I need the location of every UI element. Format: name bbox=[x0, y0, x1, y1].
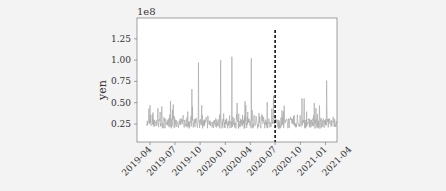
line-chart: 0.250.500.751.001.25 2019-042019-072019-… bbox=[0, 0, 446, 191]
y-tick-label: 1.25 bbox=[111, 34, 131, 44]
x-axis-ticks: 2019-042019-072019-102020-012020-042020-… bbox=[120, 142, 354, 178]
chart-figure: 0.250.500.751.001.25 2019-042019-072019-… bbox=[0, 0, 446, 191]
y-offset-label: 1e8 bbox=[137, 6, 156, 17]
y-tick-label: 0.50 bbox=[111, 98, 131, 108]
y-tick-label: 0.75 bbox=[111, 76, 131, 86]
y-tick-label: 0.25 bbox=[111, 119, 131, 129]
y-axis-label: yen bbox=[96, 80, 109, 101]
y-axis-ticks: 0.250.500.751.001.25 bbox=[111, 34, 137, 129]
y-tick-label: 1.00 bbox=[111, 55, 131, 65]
